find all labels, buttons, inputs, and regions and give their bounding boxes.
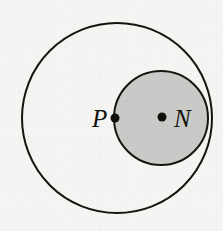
point-n-label: N [173,105,192,132]
diagram-canvas: P N [0,0,223,231]
point-n-marker [158,113,167,122]
point-p-label: P [91,105,107,132]
point-p-marker [111,114,120,123]
geometry-figure: P N [0,0,223,231]
